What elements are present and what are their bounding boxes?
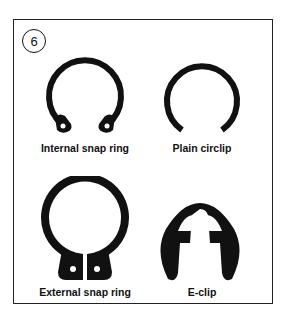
plain-circlip-icon <box>162 48 242 136</box>
e-clip-icon <box>158 201 242 281</box>
e-clip-label: E-clip <box>162 286 242 298</box>
internal-snap-ring-icon <box>40 46 130 138</box>
external-snap-ring-label: External snap ring <box>35 286 135 298</box>
external-snap-ring-icon <box>40 176 130 280</box>
plain-circlip-label: Plain circlip <box>162 142 242 154</box>
internal-snap-ring-label: Internal snap ring <box>40 142 130 154</box>
